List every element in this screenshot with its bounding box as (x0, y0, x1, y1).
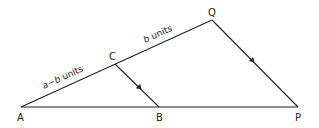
point-label-A: A (17, 112, 24, 123)
point-label-C: C (109, 51, 116, 62)
point-label-B: B (156, 112, 163, 123)
point-label-Q: Q (208, 7, 216, 18)
similar-triangles-diagram: A B C Q P a−b units b units (0, 0, 319, 128)
segment-CB (115, 64, 159, 107)
edge-label-CQ: b units (142, 23, 174, 45)
point-label-P: P (295, 112, 301, 123)
segment-AQ (21, 20, 212, 107)
segment-QP (212, 20, 298, 107)
edge-label-AC: a−b units (41, 63, 85, 90)
